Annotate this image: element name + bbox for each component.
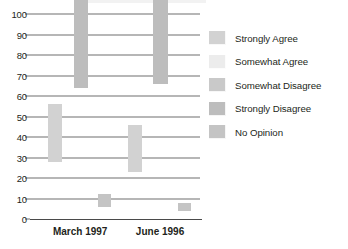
bar-segment: [128, 125, 142, 172]
legend-item[interactable]: Strongly Agree: [209, 28, 348, 48]
bar-segment: [153, 0, 168, 84]
plot-area: 0102030405060708090100 March 1997June 19…: [0, 0, 205, 249]
legend-item-label: Somewhat Agree: [235, 56, 308, 67]
y-axis-tick-label: 30: [17, 152, 27, 163]
legend-swatch-icon: [209, 102, 226, 116]
bar-agree-stack: [128, 149, 142, 219]
y-axis-tick-label: 20: [17, 173, 27, 184]
bar-strongly-disagree: [74, 88, 89, 219]
y-axis-tick-label: 90: [17, 29, 27, 40]
legend-swatch-icon: [209, 31, 226, 45]
x-axis-baseline: [30, 219, 202, 220]
bar-agree-stack: [48, 149, 62, 219]
bar-no-opinion: [178, 211, 191, 219]
gridline: [30, 75, 200, 76]
y-axis-tick-label: 80: [17, 50, 27, 61]
legend-item[interactable]: Somewhat Agree: [209, 52, 348, 72]
bar-no-opinion: [98, 207, 111, 219]
y-axis-tick-label: 60: [17, 91, 27, 102]
legend-item-label: No Opinion: [235, 127, 283, 138]
legend-swatch-icon: [209, 78, 226, 92]
legend-item[interactable]: Strongly Disagree: [209, 99, 348, 119]
gridline: [30, 34, 200, 35]
x-axis-label: June 1996: [136, 226, 184, 237]
legend-item[interactable]: Somewhat Disagree: [209, 75, 348, 95]
y-axis-tick-label: 50: [17, 111, 27, 122]
y-axis-tick-label: 100: [11, 9, 27, 20]
legend-swatch-icon: [209, 55, 226, 69]
y-axis-tick-label: 0: [22, 214, 27, 225]
gridline: [30, 14, 200, 15]
legend-item-label: Strongly Disagree: [235, 103, 311, 114]
legend-swatch-icon: [209, 125, 226, 139]
y-axis-tick-label: 40: [17, 132, 27, 143]
bar-strongly-disagree: [153, 84, 168, 219]
gridline: [30, 55, 200, 56]
y-axis-tick-label: 10: [17, 193, 27, 204]
bar-segment: [74, 0, 89, 88]
bar-chart: 0102030405060708090100 March 1997June 19…: [0, 0, 348, 249]
bar-segment: [48, 104, 62, 161]
legend-item[interactable]: No Opinion: [209, 122, 348, 142]
bar-segment: [178, 203, 191, 211]
x-axis-label: March 1997: [53, 226, 107, 237]
legend-item-label: Somewhat Disagree: [235, 80, 321, 91]
bar-segment: [98, 194, 111, 206]
legend-item-label: Strongly Agree: [235, 33, 298, 44]
chart-legend: Strongly AgreeSomewhat AgreeSomewhat Dis…: [209, 28, 348, 146]
gridline: [30, 96, 200, 97]
y-axis-tick-label: 70: [17, 70, 27, 81]
